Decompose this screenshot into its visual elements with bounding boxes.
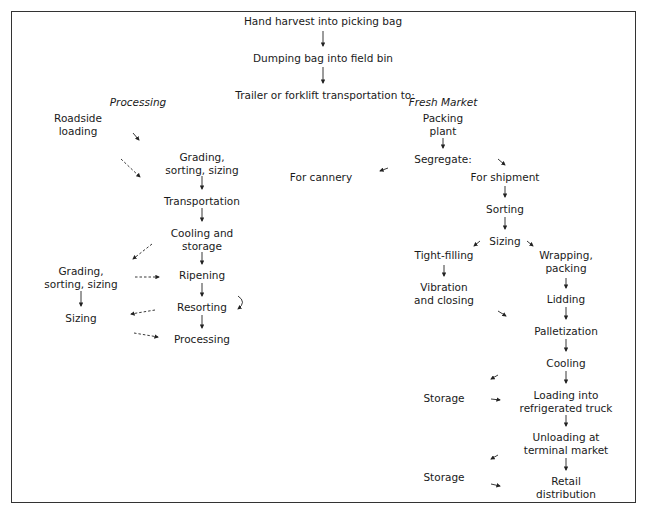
arrows-layer [0,0,649,513]
